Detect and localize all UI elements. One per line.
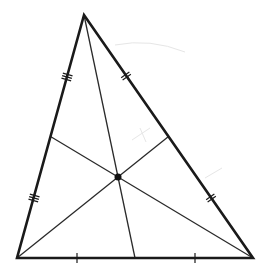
triangle-sides bbox=[17, 15, 253, 258]
medians bbox=[17, 15, 253, 258]
background-smudges bbox=[115, 43, 222, 178]
centroid-dot bbox=[115, 174, 122, 181]
triangle-centroid-diagram bbox=[0, 0, 268, 279]
smudge bbox=[205, 168, 222, 178]
congruence-tick-marks bbox=[28, 72, 215, 263]
median-from-c bbox=[51, 137, 254, 259]
triangle-outline bbox=[17, 15, 253, 258]
median-from-b bbox=[17, 137, 169, 259]
centroid-point bbox=[115, 174, 122, 181]
smudge bbox=[132, 128, 150, 142]
smudge bbox=[115, 43, 185, 52]
